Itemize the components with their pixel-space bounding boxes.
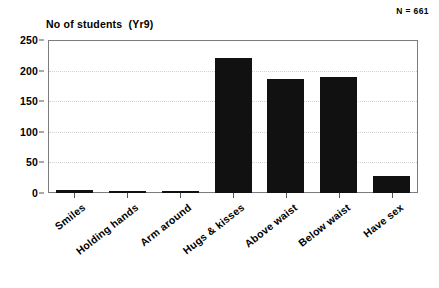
y-tick-mark — [39, 193, 44, 194]
bar-chart-figure: N = 661 No of students (Yr9) 05010015020… — [0, 0, 439, 288]
y-tick-mark — [39, 40, 44, 41]
y-tick-label: 200 — [20, 65, 38, 76]
x-tick-label: Above waist — [242, 201, 299, 250]
x-tick-label: Below waist — [296, 201, 352, 249]
y-tick-label: 150 — [20, 96, 38, 107]
y-tick-mark — [39, 131, 44, 132]
y-tick-label: 50 — [26, 157, 38, 168]
bar — [373, 176, 410, 193]
x-axis: SmilesHolding handsArm aroundHugs & kiss… — [48, 193, 439, 288]
sample-size-annotation: N = 661 — [396, 6, 429, 16]
x-tick-label: Arm around — [138, 201, 194, 248]
bar — [267, 79, 304, 193]
bars-layer — [48, 40, 418, 193]
chart-title: No of students (Yr9) — [46, 18, 153, 30]
y-tick-label: 250 — [20, 35, 38, 46]
y-tick-label: 0 — [32, 188, 38, 199]
bar — [215, 58, 252, 193]
y-axis: 050100150200250 — [0, 40, 44, 193]
y-tick-mark — [39, 70, 44, 71]
x-tick-label: Smiles — [53, 201, 88, 232]
x-tick-label: Have sex — [360, 201, 405, 239]
y-tick-label: 100 — [20, 127, 38, 138]
y-tick-mark — [39, 162, 44, 163]
y-tick-mark — [39, 101, 44, 102]
bar — [320, 77, 357, 193]
